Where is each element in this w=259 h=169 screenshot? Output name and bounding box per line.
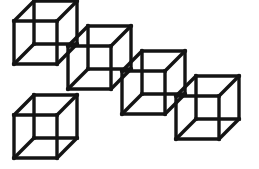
necker-cube-figure: Necker cube illusion figure Diagonal cha… bbox=[0, 0, 259, 169]
cube-canvas: Necker cube illusion figure Diagonal cha… bbox=[0, 0, 259, 169]
